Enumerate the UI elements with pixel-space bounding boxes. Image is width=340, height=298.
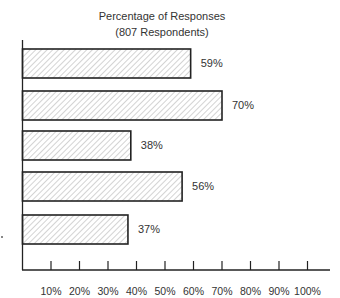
bar-5 — [23, 215, 128, 244]
x-tick-label: 30% — [97, 285, 118, 297]
x-tick-label: 80% — [240, 285, 261, 297]
x-tick-label: 40% — [126, 285, 147, 297]
x-tick-label: 10% — [40, 285, 61, 297]
bar-4 — [23, 172, 183, 201]
bar-2 — [23, 91, 223, 120]
bar-chart-plot — [0, 0, 340, 298]
bar-3 — [23, 131, 131, 160]
x-tick-label: 50% — [154, 285, 175, 297]
bar-value-label: 70% — [232, 99, 254, 111]
x-tick-label: 60% — [183, 285, 204, 297]
bar-value-label: 56% — [192, 180, 214, 192]
x-tick-label: 70% — [211, 285, 232, 297]
x-tick-label: 90% — [268, 285, 289, 297]
bar-value-label: 59% — [201, 57, 223, 69]
stray-mark — [1, 236, 3, 238]
bar-1 — [23, 49, 191, 78]
bar-value-label: 38% — [141, 139, 163, 151]
bar-value-label: 37% — [138, 223, 160, 235]
x-tick-label: 100% — [294, 285, 321, 297]
x-tick-label: 20% — [69, 285, 90, 297]
